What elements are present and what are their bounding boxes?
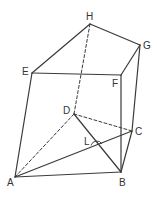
label-L: L (84, 136, 90, 147)
edge-DC (74, 114, 132, 131)
label-G: G (143, 40, 151, 51)
solid-edges (15, 24, 140, 177)
label-H: H (86, 11, 93, 22)
edge-BC (121, 131, 132, 172)
edge-AC (15, 131, 132, 177)
label-C: C (135, 126, 142, 137)
label-B: B (119, 177, 126, 188)
prism-diagram: A B C D E F G H L (0, 0, 157, 199)
edge-EF (32, 73, 121, 75)
label-E: E (22, 66, 29, 77)
vertex-labels: A B C D E F G H L (7, 11, 151, 188)
edge-AB (15, 172, 121, 177)
label-F: F (112, 78, 118, 89)
edge-HG (90, 24, 140, 45)
edge-EH (32, 24, 90, 73)
label-A: A (7, 177, 14, 188)
edge-DB (74, 114, 121, 172)
edge-GC (132, 45, 140, 131)
label-D: D (63, 105, 70, 116)
edge-HD (74, 24, 90, 114)
